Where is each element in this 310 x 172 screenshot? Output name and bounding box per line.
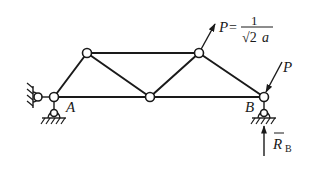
svg-text:√2: √2 <box>242 30 257 45</box>
truss-members <box>54 53 264 97</box>
member-topright-b <box>199 53 264 97</box>
wall-support-a <box>27 83 50 108</box>
node-top-right <box>195 49 204 58</box>
load-label-top: P = 1 √2 a <box>218 13 273 45</box>
node-b <box>260 93 269 102</box>
svg-text:a: a <box>262 30 269 45</box>
label-b: B <box>245 99 254 115</box>
ground-support-a <box>41 101 66 124</box>
svg-text:=: = <box>229 20 237 35</box>
member-mid-topright <box>150 53 199 97</box>
load-label-right: P <box>282 59 292 75</box>
reaction-label-b: R B <box>272 133 292 154</box>
node-bottom-mid <box>146 93 155 102</box>
member-topleft-mid <box>87 53 150 97</box>
member-a-topleft <box>54 53 87 97</box>
svg-text:B: B <box>285 143 292 154</box>
truss-nodes <box>50 49 269 102</box>
ground-support-b <box>251 101 276 124</box>
svg-text:1: 1 <box>251 13 258 28</box>
truss-diagram: A B P = 1 √2 a P R B <box>0 0 310 172</box>
svg-text:P: P <box>218 19 228 35</box>
node-top-left <box>83 49 92 58</box>
node-a <box>50 93 59 102</box>
label-a: A <box>65 99 76 115</box>
load-arrow-right <box>266 62 282 92</box>
svg-text:R: R <box>272 136 282 152</box>
